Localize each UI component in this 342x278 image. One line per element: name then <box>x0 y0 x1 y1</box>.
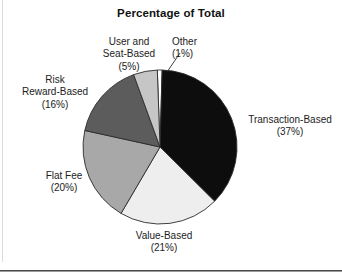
slice-label-risk-reward-based: Risk Reward-Based (16%) <box>8 74 102 111</box>
slice-label-other: Other (1%) <box>172 36 228 61</box>
pie-chart-figure: Percentage of Total User and Seat-Based … <box>0 0 342 278</box>
slice-label-user-and-seat-based: User and Seat-Based (5%) <box>88 36 170 73</box>
slice-label-transaction-based: Transaction-Based (37%) <box>238 114 342 139</box>
slice-label-flat-fee: Flat Fee (20%) <box>22 170 106 195</box>
slice-label-value-based: Value-Based (21%) <box>112 230 216 255</box>
pie-slices-group <box>83 70 237 224</box>
